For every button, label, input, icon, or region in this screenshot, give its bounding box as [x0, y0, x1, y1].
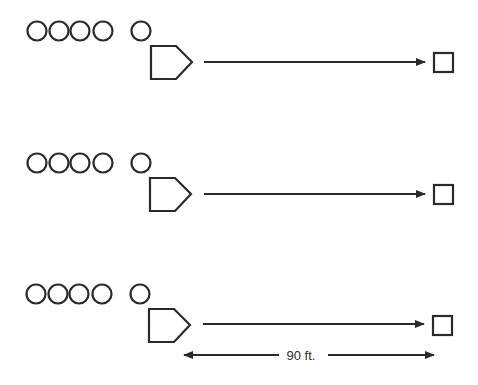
home-plate-icon — [151, 46, 192, 79]
waiting-players-line — [28, 22, 113, 41]
home-plate-icon — [150, 178, 191, 211]
drill-row-1 — [28, 22, 454, 80]
distance-label: 90 ft. — [287, 348, 316, 363]
base-square-icon — [434, 185, 453, 204]
base-square-icon — [434, 53, 453, 72]
active-player-circle-icon — [132, 22, 151, 41]
active-player-circle-icon — [131, 285, 150, 304]
player-circle-icon — [93, 285, 112, 304]
player-circle-icon — [28, 22, 47, 41]
drill-row-3 — [27, 285, 453, 343]
player-circle-icon — [71, 22, 90, 41]
distance-dimension: 90 ft. — [184, 348, 434, 363]
player-circle-icon — [50, 154, 69, 173]
player-circle-icon — [50, 22, 69, 41]
player-circle-icon — [71, 154, 90, 173]
home-plate-icon — [149, 309, 190, 342]
drill-row-2 — [28, 154, 454, 212]
waiting-players-line — [28, 154, 113, 173]
player-circle-icon — [27, 285, 46, 304]
player-circle-icon — [49, 285, 68, 304]
waiting-players-line — [27, 285, 112, 304]
player-circle-icon — [70, 285, 89, 304]
player-circle-icon — [28, 154, 47, 173]
player-circle-icon — [94, 154, 113, 173]
player-circle-icon — [94, 22, 113, 41]
base-square-icon — [433, 316, 452, 335]
active-player-circle-icon — [132, 154, 151, 173]
drill-diagram: 90 ft. — [0, 0, 478, 385]
